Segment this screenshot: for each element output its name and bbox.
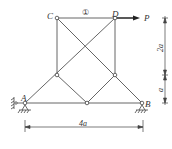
dimension-2a: 2a [156,44,165,52]
joint-e [55,73,59,77]
label-p: P [143,13,150,23]
dimension-a: a [156,88,165,92]
truss-diagram: C D A B P ① 4a 2a a [0,0,172,149]
dimension-4a: 4a [79,119,87,128]
member-fg [87,75,115,103]
member-eg [57,75,87,103]
label-d: D [111,9,119,19]
joint-b [140,101,144,105]
joint-f [113,73,117,77]
label-c: C [47,11,54,21]
label-a: A [20,93,27,103]
joint-g [85,101,89,105]
load-arrow-p [117,16,140,21]
joint-c [55,16,59,20]
label-b: B [145,99,151,109]
truss-members [25,18,142,103]
joints [23,16,144,105]
member-label-1: ① [82,8,89,17]
